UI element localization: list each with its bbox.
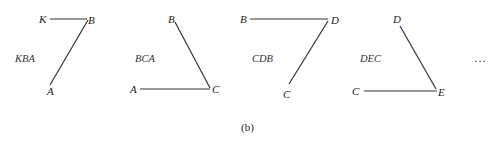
vertex-label-e: E: [437, 86, 445, 98]
segment-ba: [50, 20, 88, 85]
vertex-label-k: K: [38, 13, 47, 25]
panel-dec: D C E DEC: [352, 13, 445, 98]
vertex-label-a: A: [46, 85, 54, 97]
continuation-ellipsis: …: [474, 51, 486, 65]
segment-dc: [289, 21, 328, 84]
angle-sequence-diagram: K B A KBA B A C BCA B D C CDB D C E DEC …: [0, 0, 499, 142]
angle-name-bca: BCA: [135, 53, 155, 64]
vertex-label-c: C: [352, 85, 360, 97]
angle-name-kba: KBA: [14, 53, 35, 64]
segment-de: [400, 26, 436, 89]
panel-bca: B A C BCA: [129, 13, 220, 95]
figure-caption: (b): [241, 121, 254, 134]
vertex-label-b: B: [168, 13, 175, 25]
vertex-label-c: C: [283, 88, 291, 100]
vertex-label-b: B: [240, 13, 247, 25]
vertex-label-a: A: [129, 83, 137, 95]
panel-kba: K B A KBA: [14, 13, 95, 97]
vertex-label-d: D: [392, 13, 401, 25]
segment-bc: [175, 22, 210, 88]
panel-cdb: B D C CDB: [240, 13, 339, 100]
angle-name-cdb: CDB: [252, 53, 274, 64]
angle-name-dec: DEC: [359, 53, 382, 64]
vertex-label-d: D: [330, 14, 339, 26]
vertex-label-b: B: [88, 14, 95, 26]
vertex-label-c: C: [212, 83, 220, 95]
